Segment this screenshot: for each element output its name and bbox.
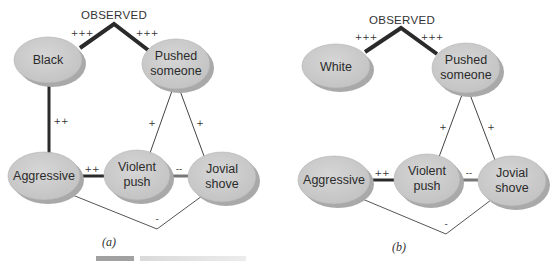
constraint-network-figure: OBSERVED +++ +++ ++ + + ++ -- - Black Pu… [0,0,557,263]
svg-text:someone: someone [150,64,201,78]
svg-text:shove: shove [205,177,238,191]
panel-label-b: (b) [392,240,406,254]
edge-sign-pushed-jovial: + [487,122,495,132]
svg-text:Aggressive: Aggressive [13,169,75,183]
edge-sign-pushed-jovial: + [196,118,204,128]
node-white: White [302,44,374,92]
edge-sign-aggressive-jovial: - [155,214,158,224]
node-aggressive: Aggressive [298,156,374,208]
svg-text:White: White [320,60,352,74]
svg-text:push: push [413,179,440,193]
edge-sign-observed-pushed: +++ [136,28,159,38]
node-violent-push: Violent push [394,154,464,208]
panel-label-a: (a) [102,235,116,249]
svg-text:Aggressive: Aggressive [303,173,365,187]
edge-sign-aggressive-violent: ++ [374,168,389,178]
edge-sign-observed-white: +++ [355,32,378,42]
svg-text:Black: Black [33,53,64,67]
svg-text:Violent: Violent [408,164,447,178]
edge-sign-violent-jovial: -- [466,168,473,178]
node-pushed-someone: Pushed someone [142,39,214,93]
svg-text:Pushed: Pushed [155,49,197,63]
edge-sign-aggressive-jovial: - [444,219,447,229]
node-black: Black [14,37,86,87]
svg-text:Violent: Violent [118,160,157,174]
panel-b: OBSERVED +++ +++ + + ++ -- - White Pushe… [298,14,550,254]
observed-label: OBSERVED [81,9,147,21]
edge-sign-pushed-violent: + [439,122,447,132]
node-violent-push: Violent push [104,150,174,204]
svg-text:someone: someone [440,68,491,82]
edge-sign-observed-black: +++ [71,28,94,38]
svg-text:Pushed: Pushed [445,53,487,67]
edge-sign-pushed-violent: + [148,118,156,128]
figure-caption-clipped [96,256,246,261]
edge-sign-black-aggressive: ++ [53,116,68,126]
node-pushed-someone: Pushed someone [432,43,504,97]
panel-a: OBSERVED +++ +++ ++ + + ++ -- - Black Pu… [8,9,260,249]
edge-sign-violent-jovial: -- [176,164,183,174]
svg-text:Jovial: Jovial [206,162,238,176]
svg-text:push: push [123,175,150,189]
svg-text:shove: shove [495,181,528,195]
edge-sign-aggressive-violent: ++ [84,164,99,174]
node-aggressive: Aggressive [8,152,84,204]
observed-label: OBSERVED [369,14,435,26]
edge-sign-observed-pushed: +++ [421,32,444,42]
svg-text:Jovial: Jovial [496,166,528,180]
